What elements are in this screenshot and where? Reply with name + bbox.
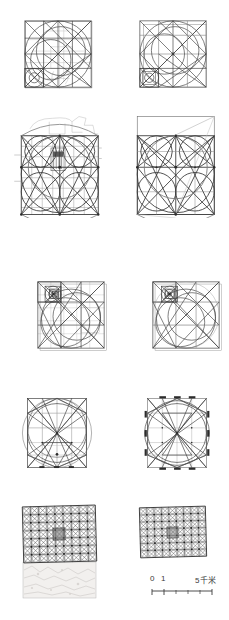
- diagram-row-5-left: [18, 504, 104, 614]
- construction-lines: [38, 282, 106, 350]
- svg-row-1-left: [22, 18, 94, 90]
- diagram-row-3-left: [35, 279, 107, 351]
- diagram-row-3-right: [150, 279, 222, 351]
- diagram-row-1-left: [22, 18, 94, 90]
- scale-label-one: 1: [161, 574, 166, 583]
- figure-plate: 0 1 5千米: [0, 0, 229, 620]
- svg-row-5-right: [136, 504, 212, 566]
- svg-row-3-left: [35, 279, 107, 351]
- svg-row-2-left: [14, 113, 102, 218]
- diagram-row-2-left: [14, 113, 102, 218]
- underlay-map-traces: [21, 117, 98, 136]
- module-grid: [22, 505, 96, 563]
- scale-bar: 0 1 5千米: [150, 574, 224, 604]
- svg-row-1-right: [137, 18, 209, 90]
- scale-label-max: 5千米: [195, 574, 216, 585]
- scale-bar-labels: 0 1 5千米: [150, 574, 224, 587]
- photo-underlay: [23, 562, 96, 598]
- svg-row-4-left: [20, 394, 94, 472]
- diagram-row-5-right: [136, 504, 212, 566]
- module-grid: [139, 506, 206, 558]
- diagram-row-4-right: [140, 394, 214, 472]
- scale-label-zero: 0: [150, 574, 155, 583]
- svg-row-5-left: [18, 504, 104, 614]
- center-module-highlight: [167, 527, 178, 538]
- center-module-highlight: [53, 528, 65, 540]
- diagram-row-1-right: [137, 18, 209, 90]
- scale-bar-rule: [151, 589, 213, 599]
- svg-row-3-right: [150, 279, 222, 351]
- construction-lines: [153, 282, 221, 350]
- construction-lines: [140, 21, 206, 87]
- construction-lines: [21, 124, 98, 218]
- svg-row-4-right: [140, 394, 214, 472]
- svg-row-2-right: [130, 113, 218, 218]
- diagram-row-2-right: [130, 113, 218, 218]
- diagram-row-4-left: [20, 394, 94, 472]
